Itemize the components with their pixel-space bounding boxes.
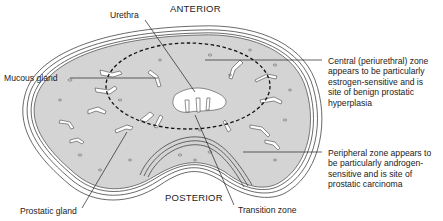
transition-zone-label: Transition zone [238, 205, 296, 215]
central-zone-description: Central (periurethral) zone appears to b… [328, 56, 443, 108]
peripheral-zone-line: prostatic carcinoma [328, 179, 443, 189]
central-zone-line: site of benign prostatic [328, 87, 443, 97]
prostate-tissue [34, 35, 310, 189]
mucous-gland-label: Mucous gland [4, 73, 58, 83]
prostatic-gland-label: Prostatic gland [20, 206, 77, 216]
peripheral-zone-line: be particularly androgen- [328, 158, 443, 168]
urethra-label: Urethra [110, 10, 139, 20]
peripheral-zone-description: Peripheral zone appears to be particular… [328, 148, 443, 190]
peripheral-zone-line: sensitive and is site of [328, 169, 443, 179]
central-zone-line: Central (periurethral) zone [328, 56, 443, 66]
posterior-label: POSTERIOR [165, 193, 223, 203]
peripheral-zone-line: Peripheral zone appears to [328, 148, 443, 158]
central-zone-line: hyperplasia [328, 98, 443, 108]
anterior-label: ANTERIOR [170, 4, 221, 14]
central-zone-line: estrogen-sensitive and is [328, 77, 443, 87]
central-zone-line: appears to be particularly [328, 66, 443, 76]
